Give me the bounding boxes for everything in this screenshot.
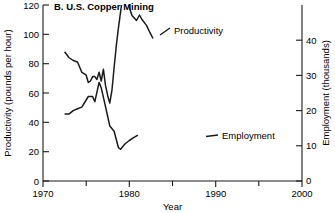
left-axis-tick-labels: 120 100 80 60 40 20 0 bbox=[23, 0, 39, 187]
x-tick-label-1990: 1990 bbox=[205, 188, 226, 199]
annotation-productivity: Productivity bbox=[160, 25, 223, 36]
right-axis-ticks bbox=[296, 40, 302, 181]
left-tick-label-40: 40 bbox=[28, 117, 39, 128]
left-tick-label-100: 100 bbox=[23, 29, 39, 40]
series-label-employment: Employment bbox=[222, 130, 275, 141]
right-axis-tick-labels: 40 30 20 10 0 bbox=[306, 35, 317, 187]
series-line-productivity bbox=[65, 28, 119, 103]
left-tick-label-120: 120 bbox=[23, 0, 39, 11]
axes-frame bbox=[43, 5, 302, 181]
leader-line-employment bbox=[206, 135, 218, 137]
annotation-employment: Employment bbox=[206, 130, 275, 141]
right-tick-label-40: 40 bbox=[306, 35, 317, 46]
series-label-productivity: Productivity bbox=[174, 25, 223, 36]
right-tick-label-0: 0 bbox=[306, 175, 311, 186]
x-axis-tick-labels: 1970 1980 1990 2000 bbox=[32, 188, 312, 199]
panel-title: B. U.S. Copper Mining bbox=[54, 1, 154, 12]
leader-line-productivity bbox=[160, 28, 170, 35]
chart-container: 120 100 80 60 40 20 0 40 30 20 10 0 bbox=[0, 0, 335, 213]
x-tick-label-2000: 2000 bbox=[291, 188, 312, 199]
left-tick-label-0: 0 bbox=[34, 176, 39, 187]
right-tick-label-20: 20 bbox=[306, 105, 317, 116]
right-tick-label-10: 10 bbox=[306, 140, 317, 151]
right-tick-label-30: 30 bbox=[306, 70, 317, 81]
x-axis-title: Year bbox=[163, 201, 182, 212]
series-line-employment bbox=[65, 82, 138, 149]
x-axis-ticks bbox=[43, 181, 302, 187]
copper-mining-line-chart: 120 100 80 60 40 20 0 40 30 20 10 0 bbox=[0, 0, 335, 213]
x-tick-label-1970: 1970 bbox=[32, 188, 53, 199]
left-axis-ticks bbox=[43, 5, 49, 181]
left-tick-label-60: 60 bbox=[28, 88, 39, 99]
y-axis-title: Productivity (pounds per hour) bbox=[2, 29, 13, 156]
left-tick-label-80: 80 bbox=[28, 58, 39, 69]
x-tick-label-1980: 1980 bbox=[119, 188, 140, 199]
left-tick-label-20: 20 bbox=[28, 146, 39, 157]
y2-axis-title: Employment (thousands) bbox=[320, 40, 331, 146]
